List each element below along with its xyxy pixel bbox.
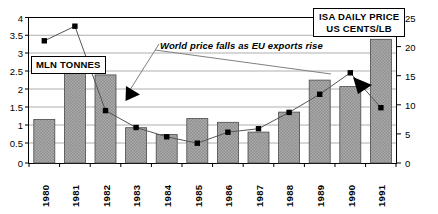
x-axis-label-1987: 1987 (254, 185, 265, 207)
price-marker-1986 (225, 130, 230, 135)
price-marker-1980 (42, 38, 47, 43)
left-axis-unit-callout: MLN TONNES (31, 56, 106, 74)
price-marker-1988 (286, 110, 291, 115)
left-axis-unit-label: MLN TONNES (36, 59, 101, 70)
x-axis-label-1982: 1982 (101, 185, 112, 207)
x-axis-label-1989: 1989 (315, 185, 326, 207)
x-axis-label-1981: 1981 (70, 185, 81, 207)
price-marker-1984 (164, 134, 169, 139)
bar-1987 (248, 132, 269, 163)
left-axis-tick-2: 2 (4, 84, 23, 95)
price-marker-1989 (317, 92, 322, 97)
bar-1988 (279, 112, 300, 163)
right-axis-unit-callout: ISA DAILY PRICE US CENTS/LB (313, 8, 405, 37)
price-marker-1985 (195, 141, 200, 146)
price-marker-1981 (72, 24, 77, 29)
bar-1986 (217, 122, 238, 163)
x-axis-label-1988: 1988 (284, 185, 295, 207)
left-axis-tick-0: 0 (4, 158, 23, 169)
left-axis-tick-0_5: 0.5 (4, 138, 23, 149)
chart-container: 4 3.5 3 2.5 2 1.5 1 0.5 0 25 20 15 10 5 … (0, 0, 438, 214)
right-axis-tick-20: 20 (405, 41, 416, 52)
x-axis-label-1991: 1991 (376, 185, 387, 207)
x-axis-label-1983: 1983 (131, 185, 142, 207)
price-marker-1991 (378, 105, 383, 110)
right-axis-tick-15: 15 (405, 70, 416, 81)
right-axis-unit-label-line2: US CENTS/LB (319, 23, 399, 35)
right-axis-tick-25: 25 (405, 12, 416, 23)
price-marker-1982 (103, 108, 108, 113)
price-marker-1987 (256, 126, 261, 131)
left-axis-tick-2_5: 2.5 (4, 66, 23, 77)
bar-1982 (95, 75, 116, 163)
bar-1981 (64, 70, 85, 163)
price-marker-1983 (133, 125, 138, 130)
x-axis-label-1980: 1980 (40, 185, 51, 207)
right-axis-tick-5: 5 (405, 128, 410, 139)
right-axis-tick-10: 10 (405, 99, 416, 110)
left-axis-tick-1: 1 (4, 120, 23, 131)
left-axis-tick-4: 4 (4, 12, 23, 23)
left-axis-tick-1_5: 1.5 (4, 102, 23, 113)
bar-1991 (370, 39, 391, 163)
x-axis-label-1986: 1986 (223, 185, 234, 207)
x-axis-label-1984: 1984 (162, 185, 173, 207)
world-price-annotation: World price falls as EU exports rise (160, 40, 323, 51)
bar-1983 (126, 128, 147, 163)
right-axis-tick-0: 0 (405, 158, 410, 169)
bar-1980 (34, 119, 55, 163)
bar-1990 (340, 87, 361, 163)
left-axis-tick-3: 3 (4, 48, 23, 59)
price-marker-1990 (348, 70, 353, 75)
x-axis-label-1990: 1990 (346, 185, 357, 207)
right-axis-unit-label-line1: ISA DAILY PRICE (319, 11, 399, 23)
x-axis-label-1985: 1985 (193, 185, 204, 207)
left-axis-tick-3_5: 3.5 (4, 30, 23, 41)
